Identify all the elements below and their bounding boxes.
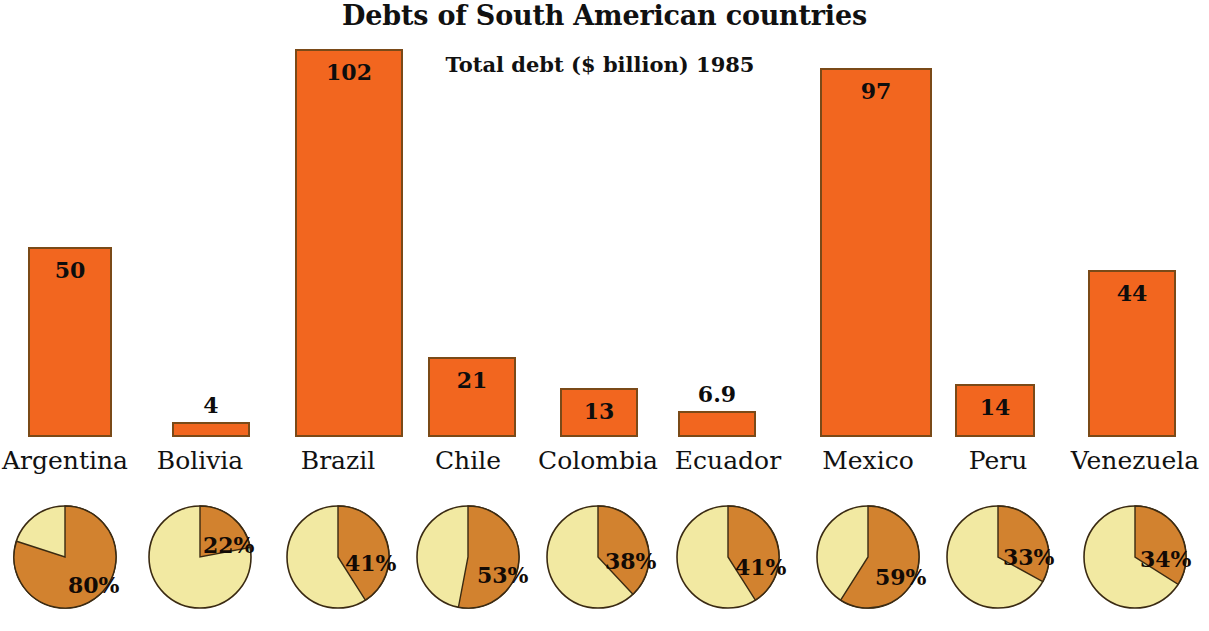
bar-value-label-argentina: 50 [28,259,112,281]
pie-percent-label-colombia: 38% [605,550,657,572]
bar-column-mexico: 97 [820,0,932,437]
bar-column-chile: 21 [428,0,516,437]
pie-percent-label-argentina: 80% [68,574,120,596]
pie-chart-argentina[interactable]: 80% [12,504,118,610]
bar-ecuador[interactable] [678,411,756,437]
pie-chart-ecuador[interactable]: 41% [675,504,781,610]
pie-chart-peru[interactable]: 33% [945,504,1051,610]
bar-value-label-bolivia: 4 [172,394,250,416]
pie-chart-chile[interactable]: 53% [415,504,521,610]
bar-bolivia[interactable] [172,422,250,437]
bar-column-ecuador: 6.9 [678,0,756,437]
bar-value-label-mexico: 97 [820,80,932,102]
pie-percent-label-mexico: 59% [875,566,927,588]
pie-chart-venezuela[interactable]: 34% [1082,504,1188,610]
bar-value-label-brazil: 102 [295,61,403,83]
bar-value-label-venezuela: 44 [1088,282,1176,304]
pie-percent-label-brazil: 41% [345,552,397,574]
pie-chart-mexico[interactable]: 59% [815,504,921,610]
bar-column-colombia: 13 [560,0,638,437]
chart-root: Debts of South American countries Total … [0,0,1209,631]
pie-svg-chile [415,504,521,610]
bar-column-brazil: 102 [295,0,403,437]
bar-column-bolivia: 4 [172,0,250,437]
bar-value-label-ecuador: 6.9 [678,383,756,405]
pie-chart-bolivia[interactable]: 22% [147,504,253,610]
pie-chart-brazil[interactable]: 41% [285,504,391,610]
bar-mexico[interactable] [820,68,932,437]
bar-column-venezuela: 44 [1088,0,1176,437]
pie-percent-label-ecuador: 41% [735,556,787,578]
bar-value-label-colombia: 13 [560,400,638,422]
bar-column-argentina: 50 [28,0,112,437]
pie-percent-label-bolivia: 22% [203,534,255,556]
bar-brazil[interactable] [295,49,403,437]
pie-chart-colombia[interactable]: 38% [545,504,651,610]
bar-value-label-chile: 21 [428,369,516,391]
country-label-venezuela: Venezuela [1045,448,1209,473]
bar-value-label-peru: 14 [955,396,1035,418]
bar-column-peru: 14 [955,0,1035,437]
pie-percent-label-chile: 53% [477,564,529,586]
pie-percent-label-venezuela: 34% [1140,548,1192,570]
pie-svg-mexico [815,504,921,610]
pie-slice-dark-chile [458,506,519,608]
pie-percent-label-peru: 33% [1003,546,1055,568]
